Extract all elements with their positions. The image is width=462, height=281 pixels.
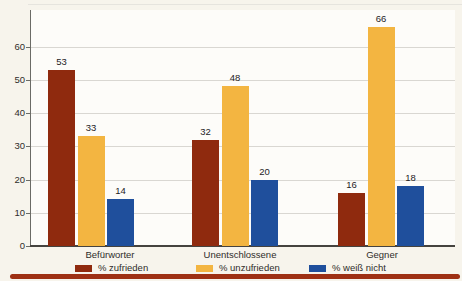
bar-2-3 xyxy=(251,180,278,247)
bar-value-label: 53 xyxy=(47,57,77,67)
bar-value-label: 32 xyxy=(191,127,221,137)
legend-label: % weiß nicht xyxy=(332,263,386,273)
y-tick-label-20: 20 xyxy=(5,175,25,185)
bar-2-1 xyxy=(192,140,219,246)
legend-swatch xyxy=(196,265,213,272)
legend-label: % zufrieden xyxy=(98,263,148,273)
bar-3-3 xyxy=(397,186,424,246)
chart-figure: 0102030405060533314Befürworter324820Unen… xyxy=(0,0,462,281)
bar-3-1 xyxy=(338,193,365,246)
legend-swatch xyxy=(75,265,92,272)
bar-value-label: 16 xyxy=(337,180,367,190)
y-tick-label-30: 30 xyxy=(5,141,25,151)
bar-1-3 xyxy=(107,199,134,246)
y-tick-label-0: 0 xyxy=(5,241,25,251)
legend-label: % unzufrieden xyxy=(219,263,280,273)
y-tick-label-60: 60 xyxy=(5,42,25,52)
legend-item-1: % zufrieden xyxy=(75,263,148,273)
bar-1-1 xyxy=(48,70,75,246)
bar-2-2 xyxy=(222,86,249,246)
figure-top-edge xyxy=(28,4,462,5)
bar-value-label: 20 xyxy=(250,167,280,177)
y-tick-label-10: 10 xyxy=(5,208,25,218)
legend-item-2: % unzufrieden xyxy=(196,263,280,273)
category-label: Befürworter xyxy=(55,249,165,260)
bar-value-label: 48 xyxy=(220,73,250,83)
y-tick-label-50: 50 xyxy=(5,75,25,85)
bar-3-2 xyxy=(368,27,395,246)
legend-swatch xyxy=(309,265,326,272)
bottom-rule xyxy=(10,274,460,279)
bar-value-label: 18 xyxy=(396,173,426,183)
y-axis-line xyxy=(30,10,31,246)
bar-value-label: 66 xyxy=(366,14,396,24)
category-label: Unentschlossene xyxy=(185,249,295,260)
bar-value-label: 33 xyxy=(76,123,106,133)
bar-value-label: 14 xyxy=(106,186,136,196)
legend-item-3: % weiß nicht xyxy=(309,263,386,273)
category-label: Gegner xyxy=(327,249,437,260)
y-tick-label-40: 40 xyxy=(5,108,25,118)
bar-1-2 xyxy=(78,136,105,246)
